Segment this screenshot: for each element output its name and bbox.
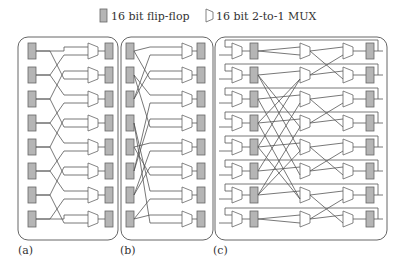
mux-icon [232,91,242,107]
mux-icon [182,187,192,203]
mux-icon [343,211,353,227]
flipflop-icon [250,67,258,83]
mux-icon [232,211,242,227]
wire [258,51,300,55]
mux-icon [343,163,353,179]
mux-icon [88,139,98,155]
mux-icon [300,67,310,83]
flipflop-icon [250,163,258,179]
mux-icon [300,187,310,203]
mux-icon [232,67,242,83]
wire [36,47,88,51]
mux-icon [300,211,310,227]
flipflop-icon [250,115,258,131]
mux-icon [182,211,192,227]
flipflop-icon [28,67,36,83]
wire [258,47,300,51]
wire [310,95,343,99]
wire [258,143,300,147]
flipflop-icon [28,115,36,131]
mux-icon [182,91,192,107]
flipflop-icon [366,91,374,107]
flipflop-icon [28,211,36,227]
mux-icon [182,139,192,155]
flipflop-icon [105,91,113,107]
wire [36,151,88,171]
flipflop-icon [126,139,134,155]
flipflop-icon [250,91,258,107]
flipflop-icon [105,115,113,131]
flipflop-icon [126,91,134,107]
mux-icon [343,67,353,83]
wire [258,95,300,99]
flipflop-icon [126,115,134,131]
wire [310,191,343,195]
flipflop-icon [126,163,134,179]
panel-b-label: (b) [120,244,136,257]
flipflop-icon [105,139,113,155]
mux-icon [232,115,242,131]
flipflop-icon [28,139,36,155]
flipflop-icon [250,43,258,59]
wire [134,123,182,191]
flipflop-icon [197,211,205,227]
mux-icon [300,91,310,107]
flipflop-icon [105,163,113,179]
mux-icon [88,67,98,83]
mux-icon [88,43,98,59]
flipflop-icon [28,43,36,59]
mux-icon [343,139,353,155]
wire [258,215,300,219]
flipflop-icon [28,91,36,107]
flipflop-icon [250,187,258,203]
wire [134,103,182,171]
flipflop-icon [126,67,134,83]
wire [258,219,300,223]
wire [310,143,343,147]
flipflop-icon [197,139,205,155]
wire [134,123,182,223]
diagram [0,0,404,271]
mux-icon [343,115,353,131]
flipflop-icon [105,67,113,83]
wire [134,199,182,219]
flipflop-icon [126,187,134,203]
mux-icon [232,43,242,59]
wire [134,47,182,51]
flipflop-icon [126,43,134,59]
flipflop-icon [28,163,36,179]
wire [36,199,88,219]
mux-icon [300,163,310,179]
mux-icon [182,163,192,179]
flipflop-icon [366,211,374,227]
mux-icon [182,43,192,59]
mux-icon [88,187,98,203]
flipflop-icon [28,187,36,203]
flipflop-icon [197,187,205,203]
flipflop-icon [105,43,113,59]
flipflop-icon [366,43,374,59]
mux-icon [300,43,310,59]
mux-icon [232,139,242,155]
panel-c-label: (c) [213,244,228,257]
mux-icon [88,91,98,107]
flipflop-icon [197,163,205,179]
flipflop-icon [366,67,374,83]
flipflop-icon [105,187,113,203]
wire [36,123,88,143]
flipflop-icon [366,187,374,203]
mux-icon [232,163,242,179]
mux-icon [343,43,353,59]
flipflop-icon [197,115,205,131]
flipflop-icon [250,139,258,155]
flipflop-icon [366,139,374,155]
mux-icon [343,187,353,203]
mux-icon [88,163,98,179]
wire [134,151,182,195]
flipflop-icon [197,67,205,83]
flipflop-icon [105,211,113,227]
mux-icon [182,115,192,131]
panel-a-label: (a) [18,244,33,257]
flipflop-icon [366,115,374,131]
mux-icon [88,115,98,131]
